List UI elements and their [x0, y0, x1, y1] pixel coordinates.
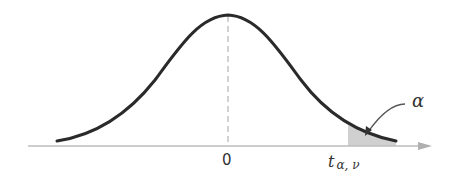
critical-label-t: t — [328, 152, 334, 171]
alpha-pointer-line — [368, 104, 405, 132]
density-curve — [57, 15, 396, 141]
critical-value-label: tα, ν — [328, 152, 359, 171]
center-label: 0 — [222, 151, 232, 169]
t-distribution-figure: 0 tα, ν α — [0, 0, 456, 181]
tail-alpha-label: α — [412, 90, 424, 111]
axis-arrow-icon — [418, 142, 432, 150]
critical-label-subscript: α, ν — [336, 158, 359, 172]
